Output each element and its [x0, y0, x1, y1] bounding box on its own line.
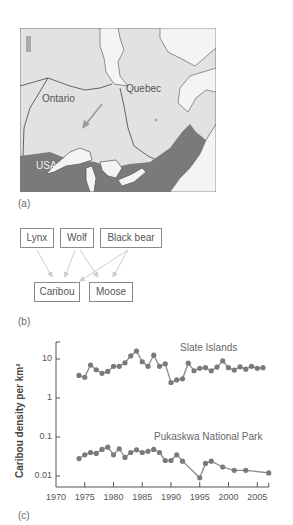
x-tick-label: 2000 — [214, 492, 244, 502]
y-axis-label: Caribou density per km² — [14, 364, 25, 478]
x-tick-label: 1980 — [99, 492, 129, 502]
x-tick-label: 1995 — [185, 492, 215, 502]
x-tick-label: 1990 — [156, 492, 186, 502]
y-tick-label: 0.1 — [24, 431, 52, 441]
x-tick-label: 2005 — [242, 492, 272, 502]
x-tick-label: 1985 — [127, 492, 157, 502]
series-label-slate: Slate Islands — [180, 342, 237, 353]
x-tick-label: 1975 — [70, 492, 100, 502]
panel-c-label: (c) — [18, 510, 30, 521]
y-tick-label: 0.01 — [24, 470, 52, 480]
x-tick-label: 1970 — [41, 492, 71, 502]
series-label-pukaskwa: Pukaskwa National Park — [154, 431, 262, 442]
y-tick-label: 1 — [24, 392, 52, 402]
density-chart — [0, 0, 293, 525]
y-tick-label: 10 — [24, 353, 52, 363]
